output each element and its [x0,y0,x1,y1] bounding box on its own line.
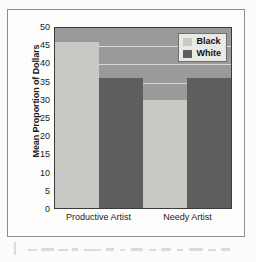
scan-artifact-mark [84,249,101,251]
y-axis-tick-label: 40 [40,59,50,68]
y-axis-tick-label: 45 [40,41,50,50]
y-axis-tick-label: 50 [40,23,50,32]
y-axis-tick-labels: 50454035302520151050 [28,27,50,209]
y-axis-tick-label: 25 [40,114,50,123]
y-axis-tick-label: 35 [40,77,50,86]
figure-frame: Mean Proportion of Dollars 5045403530252… [7,9,245,237]
legend: BlackWhite [178,33,228,62]
scan-artifact-mark [208,249,216,251]
bar [55,28,99,208]
legend-swatch-icon [183,38,192,46]
scan-artifact-mark [14,242,16,255]
scan-artifact-mark [149,249,156,251]
scan-artifact-mark [72,248,78,251]
x-axis-category-label: Needy Artist [143,212,232,222]
legend-label: White [197,49,222,58]
scan-artifact-mark [189,248,203,251]
plot-area: BlackWhite [54,27,232,209]
scan-artifact-mark [221,248,230,251]
scan-artifact-mark [41,248,54,251]
legend-item: Black [183,37,222,46]
y-axis-tick-label: 30 [40,95,50,104]
bar-fill [143,100,187,208]
x-axis-category-label: Productive Artist [54,212,143,222]
x-axis-category-labels: Productive ArtistNeedy Artist [54,212,232,222]
y-axis-tick-label: 10 [40,168,50,177]
scan-artifact-mark [161,248,171,251]
bar-fill [187,78,231,208]
legend-swatch-icon [183,50,192,58]
scan-artifacts [0,240,256,262]
scan-artifact-mark [120,249,125,251]
legend-item: White [183,49,222,58]
scan-artifact-mark [177,249,183,251]
scan-artifact-mark [131,248,143,251]
legend-label: Black [197,37,221,46]
y-axis-tick-label: 5 [45,186,50,195]
bar [99,28,143,208]
y-axis-tick-label: 15 [40,150,50,159]
y-axis-tick-label: 0 [45,205,50,214]
scan-artifact-mark [28,249,37,251]
bar-fill [99,78,143,208]
y-axis-tick-label: 20 [40,132,50,141]
scanned-page: Mean Proportion of Dollars 5045403530252… [0,0,256,262]
scan-artifact-mark [106,248,114,251]
bar-fill [55,42,99,208]
scan-artifact-mark [58,249,68,251]
